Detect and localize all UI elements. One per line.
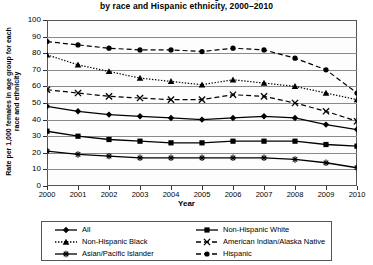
y-tick-mark xyxy=(43,20,47,21)
data-point-marker-asterisk xyxy=(354,165,357,171)
data-point-marker-square xyxy=(168,140,173,145)
y-tick-label: 60 xyxy=(15,82,41,90)
data-point-marker-circle xyxy=(199,49,204,54)
data-point-marker-asterisk xyxy=(75,151,81,157)
data-point-marker-asterisk xyxy=(106,153,112,159)
data-point-marker-circle xyxy=(137,47,142,52)
legend-item-non-hispanic-black[interactable]: Non-Hispanic Black xyxy=(53,236,147,248)
series-layer xyxy=(47,20,357,186)
data-point-marker-diamond xyxy=(137,113,143,119)
chart-title-line-2: by race and Hispanic ethnicity, 2000–201… xyxy=(0,1,373,11)
data-point-marker-triangle xyxy=(323,90,330,96)
y-tick-label: 100 xyxy=(15,16,41,24)
legend-item-non-hispanic-white[interactable]: Non-Hispanic White xyxy=(194,224,289,236)
data-point-marker-triangle xyxy=(106,68,113,74)
data-point-marker-circle xyxy=(354,90,357,95)
data-point-marker-square xyxy=(137,139,142,144)
data-point-marker-square xyxy=(75,134,80,139)
y-tick-mark xyxy=(43,169,47,170)
legend-marker-asterisk-icon xyxy=(53,248,79,260)
series-asian-pacific-islander xyxy=(47,148,357,171)
data-point-marker-asterisk xyxy=(168,155,174,161)
y-tick-label: 40 xyxy=(15,116,41,124)
y-tick-mark xyxy=(43,153,47,154)
x-tick-mark xyxy=(202,186,203,190)
data-point-marker-diamond xyxy=(354,126,357,132)
y-tick-mark xyxy=(43,103,47,104)
x-tick-label: 2000 xyxy=(30,191,64,199)
y-tick-mark xyxy=(43,53,47,54)
data-point-marker-diamond xyxy=(292,115,298,121)
legend-item-hispanic[interactable]: Hispanic xyxy=(194,248,252,260)
legend-item-asian-pacific-islander[interactable]: Asian/Pacific Islander xyxy=(53,248,154,260)
data-point-marker-circle xyxy=(323,67,328,72)
legend-item-american-indian-alaska-native[interactable]: American Indian/Alaska Native xyxy=(194,236,325,248)
data-point-marker-triangle xyxy=(199,81,206,87)
data-point-marker-asterisk xyxy=(261,155,267,161)
x-tick-label: 2003 xyxy=(123,191,157,199)
x-tick-mark xyxy=(326,186,327,190)
data-point-marker-square xyxy=(354,144,357,149)
data-point-marker-square xyxy=(106,137,111,142)
data-point-marker-asterisk xyxy=(230,155,236,161)
legend-label: American Indian/Alaska Native xyxy=(223,236,325,248)
legend-marker-cross-icon xyxy=(194,236,220,248)
data-point-marker-diamond xyxy=(75,108,81,114)
data-point-marker-diamond xyxy=(63,227,69,233)
data-point-marker-circle xyxy=(75,42,80,47)
series-non-hispanic-white xyxy=(47,129,357,149)
data-point-marker-circle xyxy=(261,47,266,52)
x-axis-title: Year xyxy=(0,199,373,208)
data-point-marker-asterisk xyxy=(63,251,69,257)
y-tick-label: 20 xyxy=(15,149,41,157)
data-point-marker-diamond xyxy=(47,103,50,109)
y-tick-mark xyxy=(43,136,47,137)
y-tick-label: 50 xyxy=(15,99,41,107)
data-point-marker-diamond xyxy=(230,115,236,121)
data-point-marker-circle xyxy=(230,46,235,51)
y-tick-mark xyxy=(43,37,47,38)
legend-label: Non-Hispanic White xyxy=(223,224,289,236)
y-tick-mark xyxy=(43,120,47,121)
data-point-marker-circle xyxy=(204,251,209,256)
y-tick-label: 0 xyxy=(15,182,41,190)
data-point-marker-diamond xyxy=(261,113,267,119)
y-tick-mark xyxy=(43,70,47,71)
data-point-marker-triangle xyxy=(47,52,50,58)
legend-label: Asian/Pacific Islander xyxy=(82,248,154,260)
legend-label: All xyxy=(82,224,90,236)
x-tick-label: 2007 xyxy=(247,191,281,199)
y-tick-label: 90 xyxy=(15,33,41,41)
x-tick-mark xyxy=(233,186,234,190)
x-tick-label: 2008 xyxy=(278,191,312,199)
plot-area xyxy=(47,20,357,186)
data-point-marker-square xyxy=(292,139,297,144)
legend-marker-circle-icon xyxy=(194,248,220,260)
legend-marker-diamond-icon xyxy=(53,224,79,236)
x-tick-mark xyxy=(171,186,172,190)
data-point-marker-circle xyxy=(47,39,50,44)
x-tick-mark xyxy=(357,186,358,190)
legend-item-all[interactable]: All xyxy=(53,224,90,236)
x-tick-label: 2010 xyxy=(340,191,373,199)
legend-label: Hispanic xyxy=(223,248,252,260)
data-point-marker-asterisk xyxy=(199,155,205,161)
data-point-marker-diamond xyxy=(323,121,329,127)
x-tick-mark xyxy=(264,186,265,190)
data-point-marker-circle xyxy=(292,56,297,61)
data-point-marker-square xyxy=(230,139,235,144)
x-tick-label: 2004 xyxy=(154,191,188,199)
x-tick-mark xyxy=(140,186,141,190)
x-tick-label: 2009 xyxy=(309,191,343,199)
x-tick-mark xyxy=(295,186,296,190)
data-point-marker-square xyxy=(47,129,50,134)
y-tick-label: 80 xyxy=(15,49,41,57)
series-non-hispanic-black xyxy=(47,52,357,103)
chart-title: Birth rates for females aged 15–19, by r… xyxy=(0,0,373,11)
chart-legend: AllNon-Hispanic BlackAsian/Pacific Islan… xyxy=(41,221,332,261)
data-point-marker-cross xyxy=(323,108,329,114)
y-tick-label: 30 xyxy=(15,132,41,140)
chart-figure: Birth rates for females aged 15–19, by r… xyxy=(0,0,373,265)
data-point-marker-circle xyxy=(106,46,111,51)
x-tick-label: 2001 xyxy=(61,191,95,199)
